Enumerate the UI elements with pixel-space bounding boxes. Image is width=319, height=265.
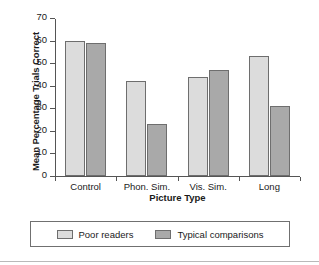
legend-swatch-icon <box>57 230 73 239</box>
y-axis-tick-label: 50 <box>36 56 47 67</box>
y-axis-tick-label: 10 <box>36 146 47 157</box>
bar <box>65 41 85 176</box>
x-axis-tick-label: Control <box>70 181 101 192</box>
x-axis-tick-label: Vis. Sim. <box>189 181 226 192</box>
y-axis-tick: 70 <box>50 18 55 19</box>
bar <box>147 124 167 176</box>
legend-swatch-icon <box>155 230 171 239</box>
y-axis-tick-label: 70 <box>36 11 47 22</box>
x-axis-tick <box>300 177 301 181</box>
x-axis-tick <box>116 177 117 181</box>
y-axis-tick: 20 <box>50 131 55 132</box>
x-axis-tick <box>239 177 240 181</box>
bottom-divider <box>0 261 319 262</box>
x-axis-title: Picture Type <box>55 192 300 203</box>
bar <box>209 70 229 176</box>
legend-label: Poor readers <box>79 229 134 240</box>
y-axis-tick-label: 60 <box>36 34 47 45</box>
y-axis-tick: 10 <box>50 153 55 154</box>
bar <box>188 77 208 176</box>
y-axis-tick: 40 <box>50 86 55 87</box>
y-axis-tick: 60 <box>50 41 55 42</box>
bar <box>126 81 146 176</box>
y-axis-tick-label: 40 <box>36 79 47 90</box>
legend-item: Typical comparisons <box>155 229 263 240</box>
y-axis-line <box>55 19 56 177</box>
x-axis-tick <box>55 177 56 181</box>
y-axis-tick-label: 20 <box>36 124 47 135</box>
x-axis-tick-label: Phon. Sim. <box>124 181 170 192</box>
y-axis-tick: 30 <box>50 108 55 109</box>
chart-figure: Mean Percentage Trials Correct 010203040… <box>0 0 319 265</box>
y-axis-tick: 50 <box>50 63 55 64</box>
y-axis-tick-label: 30 <box>36 101 47 112</box>
legend-label: Typical comparisons <box>177 229 263 240</box>
x-axis-tick <box>178 177 179 181</box>
y-axis-tick-label: 0 <box>42 169 47 180</box>
chart-legend: Poor readersTypical comparisons <box>30 221 290 247</box>
legend-item: Poor readers <box>57 229 134 240</box>
bar <box>86 43 106 176</box>
plot-area: 010203040506070 ControlPhon. Sim.Vis. Si… <box>55 19 300 177</box>
x-axis-tick-label: Long <box>259 181 280 192</box>
bar <box>249 56 269 176</box>
bar <box>270 106 290 176</box>
